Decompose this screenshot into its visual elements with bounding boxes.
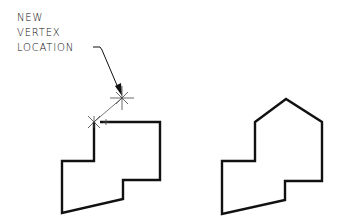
label-line-3: LOCATION (17, 42, 74, 53)
midpoint-grip-marker[interactable] (103, 119, 109, 125)
diagram-canvas: NEW VERTEX LOCATION (0, 0, 342, 224)
polygon-outline (62, 122, 160, 213)
polygon-before (62, 86, 160, 213)
polygon-outline-result (222, 99, 322, 214)
rubber-band-line (94, 98, 122, 122)
annotation-label: NEW VERTEX LOCATION (17, 12, 74, 53)
new-vertex-crosshair[interactable] (110, 86, 134, 110)
vertex-grip-marker[interactable] (88, 116, 100, 128)
label-line-2: VERTEX (17, 27, 60, 38)
leader-line (93, 47, 119, 90)
polygon-after (222, 99, 322, 214)
leader-arrow (93, 47, 122, 96)
label-line-1: NEW (17, 12, 43, 23)
